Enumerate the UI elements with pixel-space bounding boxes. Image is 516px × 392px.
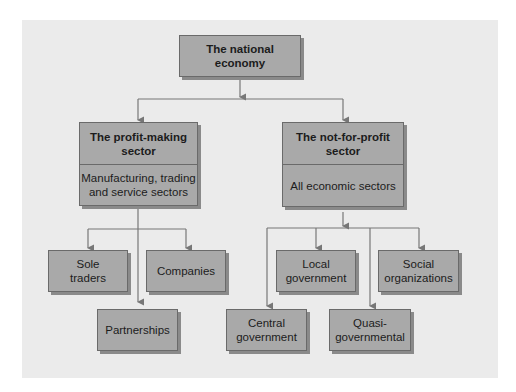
root-label: The national economy (180, 42, 300, 70)
companies-label: Companies (157, 264, 215, 278)
quasi-governmental-label: Quasi- governmental (335, 316, 405, 344)
local-government-label: Local government (286, 257, 347, 285)
central-government-label: Central government (236, 316, 297, 344)
companies-node: Companies (146, 250, 226, 292)
nonprofit-sector-description: All economic sectors (283, 165, 403, 206)
nonprofit-sector-node: The not-for-profit sector All economic s… (282, 122, 404, 207)
nonprofit-sector-title: The not-for-profit sector (283, 123, 403, 165)
profit-sector-node: The profit-making sector Manufacturing, … (79, 122, 198, 206)
profit-sector-title: The profit-making sector (80, 123, 197, 165)
partnerships-node: Partnerships (97, 309, 178, 351)
sole-traders-node: Sole traders (48, 250, 128, 292)
sole-traders-label: Sole traders (70, 257, 106, 285)
quasi-governmental-node: Quasi- governmental (329, 309, 411, 351)
central-government-node: Central government (226, 309, 307, 351)
local-government-node: Local government (276, 250, 356, 292)
social-organizations-node: Social organizations (378, 250, 459, 292)
profit-sector-description: Manufacturing, trading and service secto… (80, 165, 197, 205)
social-organizations-label: Social organizations (384, 257, 452, 285)
partnerships-label: Partnerships (105, 323, 170, 337)
root-node: The national economy (179, 35, 301, 77)
